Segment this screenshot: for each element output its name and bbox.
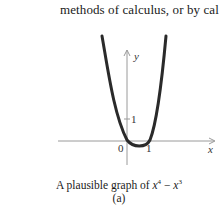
figure-caption: A plausible graph of x4 − x3 bbox=[8, 178, 222, 191]
figure-sublabel: (a) bbox=[8, 192, 222, 204]
caption-prefix: A plausible graph of bbox=[56, 179, 152, 191]
y-axis-label: y bbox=[133, 50, 139, 62]
function-graph: y x 1 0 1 bbox=[0, 0, 222, 208]
caption-minus: − bbox=[161, 179, 173, 191]
x-tick-label-1: 1 bbox=[146, 142, 152, 154]
y-tick-label-1: 1 bbox=[131, 113, 137, 125]
origin-label: 0 bbox=[118, 142, 124, 154]
caption-exponent-3: 3 bbox=[178, 178, 182, 186]
x-axis-label: x bbox=[207, 143, 213, 155]
